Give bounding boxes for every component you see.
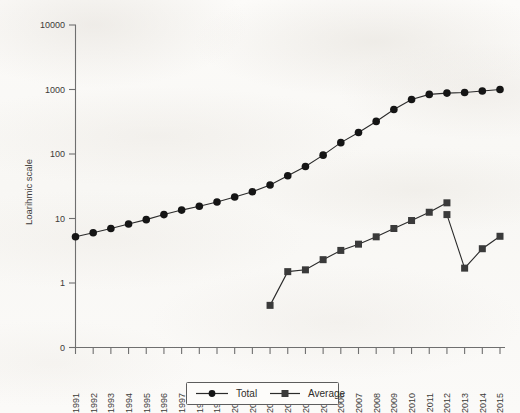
data-point-total — [496, 86, 504, 94]
data-point-total — [302, 163, 310, 171]
y-tick-label: 1 — [60, 278, 65, 288]
x-tick-label: 1994 — [124, 393, 134, 413]
data-point-average — [337, 247, 344, 254]
x-tick-label: 2010 — [407, 393, 417, 413]
data-point-average — [461, 265, 468, 272]
data-point-total — [355, 129, 363, 137]
data-point-average — [267, 302, 274, 309]
data-point-average — [373, 233, 380, 240]
data-point-total — [443, 89, 451, 97]
data-point-average — [302, 266, 309, 273]
x-tick-label: 1992 — [89, 393, 99, 413]
chart-figure: 0110100100010000 19911992199319941995199… — [0, 0, 520, 413]
data-point-total — [213, 198, 221, 206]
data-point-total — [231, 193, 239, 201]
x-tick-label: 2015 — [495, 393, 505, 413]
data-point-total — [390, 106, 398, 114]
y-tick-label: 1000 — [45, 85, 65, 95]
chart-plot-area: 0110100100010000 19911992199319941995199… — [0, 0, 520, 413]
x-tick-label: 2012 — [442, 393, 452, 413]
x-tick-label: 1996 — [159, 393, 169, 413]
data-point-total — [284, 172, 292, 180]
y-tick-label: 10 — [55, 214, 65, 224]
data-point-average — [390, 225, 397, 232]
y-axis-ticks: 0110100100010000 — [40, 20, 76, 353]
x-tick-label: 2013 — [460, 393, 470, 413]
data-point-total — [196, 202, 204, 210]
data-point-total — [107, 225, 115, 233]
series-line-average-continued- — [447, 215, 500, 269]
y-axis-title-text: Loarihmic scale — [23, 159, 34, 225]
data-point-total — [266, 181, 274, 189]
y-tick-label: 10000 — [40, 20, 65, 30]
data-point-total — [461, 89, 469, 97]
data-point-total — [372, 118, 380, 126]
x-tick-label: 2011 — [425, 393, 435, 412]
data-point-total — [249, 188, 257, 196]
chart-legend: Total Average — [187, 383, 346, 405]
data-point-average — [355, 241, 362, 248]
legend-label-average: Average — [308, 388, 346, 399]
data-point-total — [319, 151, 327, 159]
data-point-average — [408, 217, 415, 224]
x-tick-label: 1993 — [106, 393, 116, 413]
data-point-total — [72, 233, 80, 241]
data-point-total — [408, 96, 416, 104]
data-point-total — [178, 206, 186, 214]
data-point-total — [425, 91, 433, 99]
series-line-average — [270, 203, 447, 306]
x-tick-label: 2008 — [372, 393, 382, 413]
x-tick-label: 1997 — [177, 393, 187, 413]
data-point-total — [125, 220, 133, 228]
data-point-average — [426, 209, 433, 216]
series-line-total — [76, 90, 501, 237]
data-point-total — [142, 216, 150, 224]
legend-marker-total — [209, 390, 216, 397]
data-point-total — [479, 87, 487, 95]
data-point-average — [497, 233, 504, 240]
y-axis-title: Loarihmic scale — [23, 159, 34, 225]
data-point-average — [320, 256, 327, 263]
data-point-average — [443, 211, 450, 218]
x-tick-label: 2009 — [389, 393, 399, 413]
x-tick-label: 2007 — [354, 393, 364, 413]
data-point-average — [443, 199, 450, 206]
data-point-total — [337, 139, 345, 147]
axis-group — [76, 25, 506, 348]
y-tick-label: 100 — [50, 149, 65, 159]
data-series-group — [72, 86, 504, 309]
legend-label-total: Total — [236, 388, 257, 399]
legend-marker-average — [282, 390, 289, 397]
data-point-average — [284, 268, 291, 275]
x-tick-label: 1991 — [71, 393, 81, 413]
data-point-total — [89, 229, 97, 237]
x-tick-label: 2014 — [478, 393, 488, 413]
data-point-total — [160, 211, 168, 219]
y-tick-label: 0 — [60, 343, 65, 353]
x-tick-label: 1995 — [142, 393, 152, 413]
data-point-average — [479, 245, 486, 252]
